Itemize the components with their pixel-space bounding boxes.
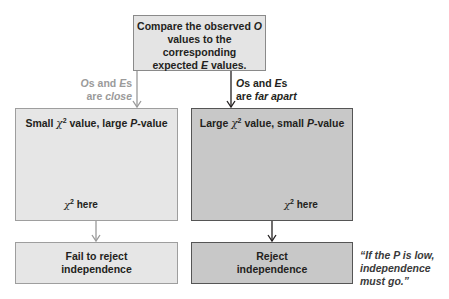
top-box-line3-post: values.: [211, 59, 247, 71]
arrow-to-fail-to-reject: [92, 221, 100, 241]
reject-independence-box: Reject independence: [191, 242, 353, 284]
result-line1: Reject: [192, 250, 352, 263]
label-are-text: are: [236, 90, 252, 102]
result-line1: Fail to reject: [16, 250, 177, 263]
label-mid-text: s and: [89, 77, 116, 89]
label-end-text: s: [282, 77, 288, 89]
arrow-to-large-chi-square: [227, 71, 235, 107]
chi-square-here-label-left: χ2 here: [64, 199, 98, 210]
mnemonic-quote: “If the P is low, independence must go.”: [360, 249, 449, 288]
title-pre: Small: [25, 117, 53, 129]
chi-superscript: 2: [70, 198, 74, 205]
top-box-line3-pre: expected: [153, 59, 199, 71]
large-chi-square-title: Large χ2 value, small P-value: [192, 117, 352, 130]
label-end-text: s: [126, 77, 132, 89]
title-post: -value: [137, 117, 167, 129]
chi-superscript: 2: [290, 198, 294, 205]
title-mid: value, large: [70, 117, 128, 129]
label-o-var: O: [81, 77, 89, 89]
quote-line1: “If the P is low,: [360, 249, 449, 262]
label-far-apart-text: far apart: [255, 90, 297, 102]
fail-to-reject-box: Fail to reject independence: [15, 242, 178, 284]
chi-superscript: 2: [63, 117, 67, 124]
title-mid: value, small: [244, 117, 304, 129]
label-e-var: E: [275, 77, 282, 89]
top-box-line1-text: Compare the observed: [137, 20, 251, 32]
large-chi-square-panel: Large χ2 value, small P-value: [191, 108, 353, 221]
top-box-line2-text: values to the corresponding: [134, 33, 265, 59]
quote-line2: independence: [360, 262, 449, 275]
chi-superscript: 2: [238, 117, 242, 124]
result-line2: independence: [16, 263, 177, 276]
label-o-var: O: [236, 77, 244, 89]
arrow-to-reject: [268, 221, 276, 241]
result-line2: independence: [192, 263, 352, 276]
label-close-text: close: [105, 90, 132, 102]
quote-line3: must go.”: [360, 275, 449, 288]
expected-variable: E: [201, 59, 208, 71]
arrow-to-small-chi-square: [133, 71, 141, 107]
label-mid-text: s and: [244, 77, 271, 89]
compare-observed-expected-box: Compare the observed O values to the cor…: [133, 15, 266, 71]
observed-variable: O: [254, 20, 262, 32]
small-chi-square-title: Small χ2 value, large P-value: [16, 117, 177, 130]
title-post: -value: [314, 117, 344, 129]
p-variable: P: [307, 117, 314, 129]
label-are-text: are: [86, 90, 102, 102]
title-pre: Large: [200, 117, 229, 129]
os-es-far-apart-label: Os and Es are far apart: [236, 77, 316, 103]
chi-square-here-label-right: χ2 here: [284, 199, 318, 210]
os-es-close-label: Os and Es are close: [70, 77, 132, 103]
here-text: here: [77, 199, 98, 210]
here-text: here: [297, 199, 318, 210]
